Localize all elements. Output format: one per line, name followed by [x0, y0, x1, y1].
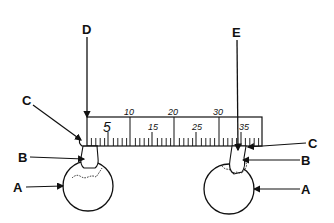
- label-C-left: C: [22, 93, 32, 108]
- label-B-left: B: [18, 150, 27, 165]
- left-stem: [81, 146, 98, 168]
- ruler-number-15: 15: [148, 122, 159, 132]
- label-A-left: A: [13, 180, 23, 195]
- label-C-right: C: [308, 136, 318, 151]
- pointer-B-left: [30, 157, 84, 159]
- pointer-C-left: [33, 105, 81, 140]
- measurement-diagram: 10 20 30 5 15 25 35 D E C C B B A A: [0, 0, 334, 223]
- ruler-number-20: 20: [167, 107, 178, 117]
- pointer-A-left: [26, 186, 63, 187]
- label-D: D: [82, 22, 91, 37]
- label-B-right: B: [301, 153, 310, 168]
- ruler-number-25: 25: [191, 122, 203, 132]
- ruler-number-30: 30: [213, 107, 223, 117]
- label-E: E: [232, 25, 241, 40]
- ruler-number-5: 5: [103, 119, 111, 135]
- left-sphere-assembly: [63, 138, 113, 211]
- right-sphere-assembly: [204, 146, 254, 214]
- ruler-number-10: 10: [124, 107, 134, 117]
- ruler-number-35: 35: [239, 122, 250, 132]
- ruler: 10 20 30 5 15 25 35: [87, 107, 262, 146]
- right-sphere: [204, 164, 254, 214]
- label-A-right: A: [301, 182, 311, 197]
